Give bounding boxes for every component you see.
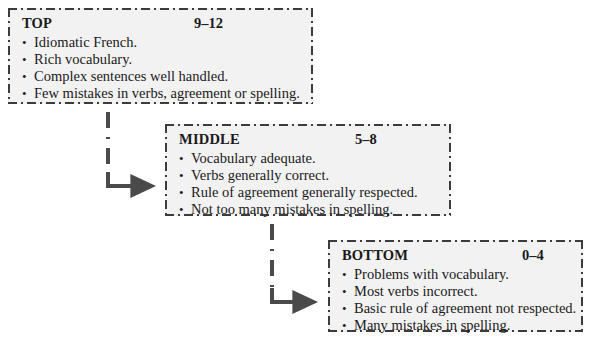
bullet-list-middle: Vocabulary adequate. Verbs generally cor…	[165, 150, 451, 218]
list-item: Idiomatic French.	[22, 34, 313, 51]
bullet-list-bottom: Problems with vocabulary. Most verbs inc…	[328, 266, 583, 334]
box-header-top: TOP 9–12	[8, 15, 313, 34]
box-header-middle: MIDDLE 5–8	[165, 131, 451, 150]
box-title-middle: MIDDLE	[179, 131, 240, 148]
box-score-middle: 5–8	[355, 131, 377, 148]
connector-middle-to-bottom	[272, 224, 314, 302]
list-item: Verbs generally correct.	[179, 167, 451, 184]
box-score-top: 9–12	[194, 15, 223, 32]
bullet-list-top: Idiomatic French. Rich vocabulary. Compl…	[8, 34, 313, 102]
list-item: Few mistakes in verbs, agreement or spel…	[22, 85, 313, 102]
list-item: Complex sentences well handled.	[22, 68, 313, 85]
connector-top-to-middle	[108, 112, 152, 186]
box-score-bottom: 0–4	[522, 247, 544, 264]
list-item: Basic rule of agreement not respected.	[342, 300, 583, 317]
list-item: Rule of agreement generally respected.	[179, 184, 451, 201]
list-item: Many mistakes in spelling.	[342, 317, 583, 334]
flow-diagram: TOP 9–12 Idiomatic French. Rich vocabula…	[0, 0, 596, 340]
box-title-top: TOP	[22, 15, 52, 32]
list-item: Vocabulary adequate.	[179, 150, 451, 167]
box-title-bottom: BOTTOM	[342, 247, 408, 264]
level-box-bottom: BOTTOM 0–4 Problems with vocabulary. Mos…	[328, 240, 583, 332]
list-item: Most verbs incorrect.	[342, 283, 583, 300]
box-header-bottom: BOTTOM 0–4	[328, 247, 583, 266]
list-item: Not too many mistakes in spelling.	[179, 201, 451, 218]
list-item: Rich vocabulary.	[22, 51, 313, 68]
level-box-middle: MIDDLE 5–8 Vocabulary adequate. Verbs ge…	[165, 124, 451, 216]
level-box-top: TOP 9–12 Idiomatic French. Rich vocabula…	[8, 8, 313, 104]
list-item: Problems with vocabulary.	[342, 266, 583, 283]
